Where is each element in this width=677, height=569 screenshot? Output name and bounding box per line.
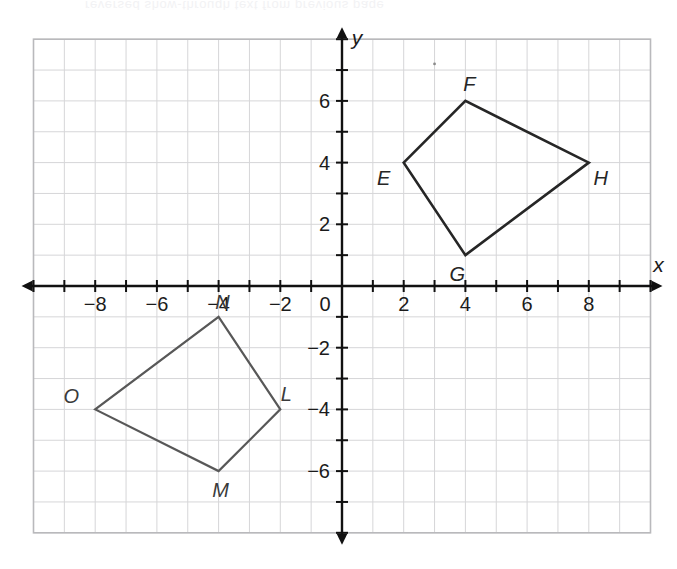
vertex-label-n: N	[215, 291, 230, 313]
tick-label-x-0: 0	[319, 293, 330, 315]
coordinate-plane-svg: −8−6−4−202468642−2−4−6 xy EFHGNLMO	[0, 0, 677, 569]
tick-label-x--8: −8	[84, 293, 107, 315]
tick-label-y--4: −4	[307, 398, 330, 420]
tick-label-y--6: −6	[307, 460, 330, 482]
vertex-label-m: M	[212, 479, 229, 501]
tick-label-x-8: 8	[583, 293, 594, 315]
scan-speck-0	[433, 62, 436, 65]
vertex-label-g: G	[450, 263, 466, 285]
y-axis-label: y	[350, 26, 364, 49]
tick-label-x--6: −6	[145, 293, 168, 315]
tick-label-y-6: 6	[319, 90, 330, 112]
axis-name-labels: xy	[350, 26, 666, 276]
tick-label-x--2: −2	[269, 293, 292, 315]
tick-label-y-2: 2	[319, 213, 330, 235]
axes	[22, 27, 663, 545]
vertex-label-l: L	[281, 383, 292, 405]
vertex-label-e: E	[377, 167, 391, 189]
vertex-label-o: O	[63, 385, 79, 407]
coordinate-plane-figure: reversed show-through text from previous…	[0, 0, 677, 569]
x-axis-label: x	[652, 253, 665, 276]
speck-marks	[433, 62, 436, 65]
tick-label-y-4: 4	[319, 152, 330, 174]
tick-label-x-6: 6	[522, 293, 533, 315]
tick-label-x-2: 2	[398, 293, 409, 315]
vertex-label-h: H	[594, 167, 609, 189]
vertex-label-f: F	[463, 73, 477, 95]
scan-bleed-through-text: reversed show-through text from previous…	[85, 0, 605, 13]
tick-label-x-4: 4	[460, 293, 471, 315]
tick-label-y--2: −2	[307, 337, 330, 359]
